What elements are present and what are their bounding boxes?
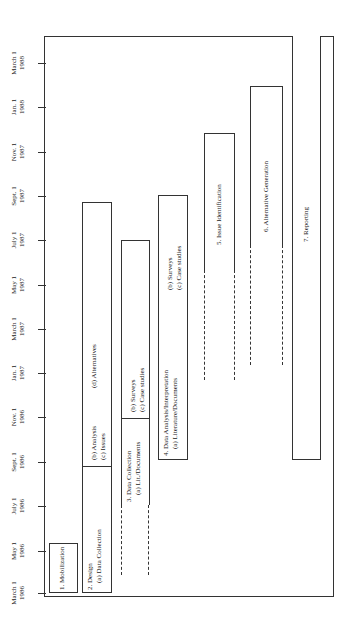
tick-label: Sept. 1 1986 [10,442,26,482]
tick-label: July 1 1987 [10,220,26,260]
tick-label: May 1 1987 [10,265,26,305]
phase-label-surveys-case-studies: (b) Surveys (c) Case studies [129,368,147,412]
axis-tick [38,551,46,552]
axis-tick [38,240,46,241]
axis-tick [38,462,46,463]
task-label-data-collection: 3. Data Collection (a) Lit./Documents [125,442,143,502]
dashed-lead-line [250,245,251,365]
task-label-design: 2. Design (a) Data Collection [86,529,104,590]
dashed-lead-line [204,270,205,380]
phase-label-analysis-issues: (b) Analysis (c) Issues [90,426,108,460]
task-label-issue-identification: 5. Issue Identification [215,184,224,245]
tick-label: Nov. 1 1987 [10,132,26,172]
task-label-mobilization: 1. Mobilization [58,547,67,590]
axis-tick [38,373,46,374]
tick-label: May 1 1986 [10,531,26,571]
axis-tick [38,107,46,108]
dashed-lead-line [282,245,283,365]
phase-label-surveys-case-studies: (b) Surveys (c) Case studies [166,246,184,290]
axis-tick [38,329,46,330]
tick-label: Nov. 1 1986 [10,397,26,437]
tick-label: Jan. 1 1987 [10,353,26,393]
phase-divider [82,466,112,467]
axis-tick [38,417,46,418]
tick-label: March 1 1988 [10,43,26,83]
phase-label-alternatives: (d) Alternatives [90,344,99,388]
axis-tick [38,285,46,286]
axis-tick [38,196,46,197]
axis-tick [38,593,46,594]
tick-label: July 1 1986 [10,486,26,526]
task-label-data-analysis: 4. Data Analysis/Interpretation (a) Lite… [162,370,180,456]
phase-divider [121,418,150,419]
axis-tick [38,63,46,64]
tick-label: Sept. 1 1987 [10,176,26,216]
dashed-lead-line [121,505,122,575]
dashed-lead-line [234,270,235,380]
task-label-alternative-generation: 6. Alternative Generation [262,161,271,232]
axis-tick [38,506,46,507]
task-bar-reporting [292,36,321,460]
dashed-lead-line [148,505,149,575]
tick-label: March 1 1987 [10,309,26,349]
axis-tick [38,152,46,153]
tick-label: March 1 1986 [10,573,26,613]
task-label-reporting: 7. Reporting [302,207,311,242]
tick-label: Jan. 1 1988 [10,87,26,127]
